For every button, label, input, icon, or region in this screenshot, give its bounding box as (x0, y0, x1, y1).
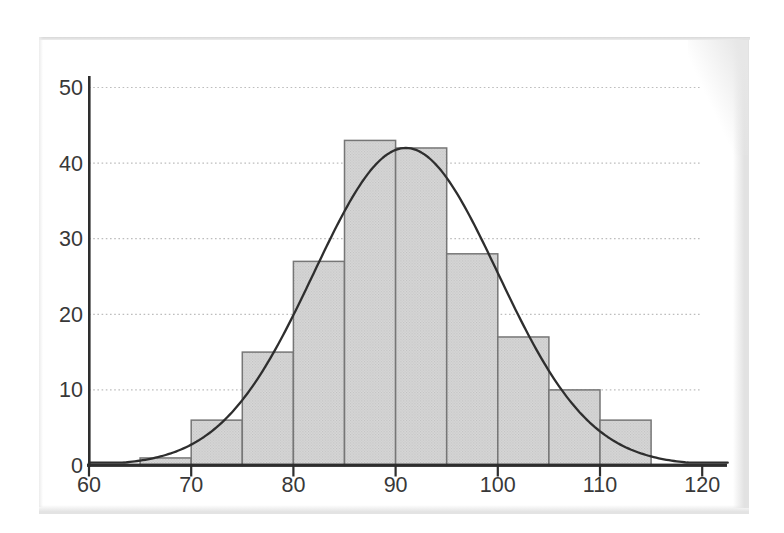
x-tick-label-120: 120 (684, 473, 720, 497)
x-tick-label-70: 70 (179, 473, 203, 497)
y-tick-label-30: 30 (59, 227, 83, 251)
histogram-bar-95-100 (447, 254, 498, 466)
y-axis-line (88, 76, 91, 467)
histogram-bar-80-85 (293, 261, 344, 465)
histogram-bar-90-95 (396, 148, 447, 466)
histogram-bar-75-80 (242, 352, 293, 465)
histogram-bar-85-90 (345, 140, 396, 465)
histogram-bar-110-115 (600, 420, 651, 465)
y-tick-label-20: 20 (59, 303, 83, 327)
x-axis-line (87, 464, 727, 467)
histogram-bars (140, 140, 651, 465)
screenshot-root: 6070809010011012001020304050 (0, 0, 784, 533)
histogram-chart: 6070809010011012001020304050 (0, 0, 784, 533)
y-tick-label-40: 40 (59, 152, 83, 176)
x-tick-label-90: 90 (384, 473, 408, 497)
histogram-bar-105-110 (549, 390, 600, 466)
x-axis-ticks: 60708090100110120 (77, 465, 720, 497)
x-tick-label-110: 110 (583, 473, 617, 497)
y-tick-label-0: 0 (71, 454, 83, 478)
x-tick-label-100: 100 (480, 473, 516, 497)
y-axis-ticks: 01020304050 (59, 76, 83, 478)
x-tick-label-80: 80 (281, 473, 305, 497)
y-tick-label-50: 50 (59, 76, 83, 100)
y-tick-label-10: 10 (59, 378, 83, 402)
